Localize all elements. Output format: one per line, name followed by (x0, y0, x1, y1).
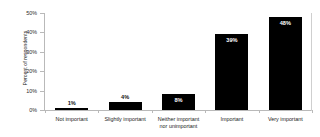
x-tick (312, 110, 313, 113)
x-category-label: Neither importantnor unimportant (152, 116, 205, 129)
x-category-label: Slightly important (98, 116, 151, 123)
y-tick (40, 91, 44, 92)
y-tick (40, 71, 44, 72)
x-tick (98, 110, 99, 113)
y-tick-label: 40% (13, 29, 37, 35)
bar (269, 17, 302, 110)
bar-value-label: 4% (109, 94, 142, 101)
x-tick (205, 110, 206, 113)
x-category-label-line: nor unimportant (152, 123, 205, 130)
bar-value-label: 1% (55, 100, 88, 107)
x-axis-line (44, 110, 312, 111)
x-category-label-line: Very important (259, 116, 312, 123)
y-tick (40, 110, 44, 111)
plot-area: 1%4%8%39%48% (45, 13, 312, 110)
x-tick (259, 110, 260, 113)
x-category-label-line: Neither important (152, 116, 205, 123)
x-category-label: Not important (45, 116, 98, 123)
x-category-label-line: Not important (45, 116, 98, 123)
bar (215, 34, 248, 110)
x-category-label-line: Important (205, 116, 258, 123)
y-tick-label: 0% (13, 107, 37, 113)
y-tick-label: 10% (13, 88, 37, 94)
x-category-label: Very important (259, 116, 312, 123)
x-category-label-line: Slightly important (98, 116, 151, 123)
bar (55, 108, 88, 110)
y-tick (40, 32, 44, 33)
x-tick (45, 110, 46, 113)
x-category-label: Important (205, 116, 258, 123)
y-tick (40, 13, 44, 14)
bar-value-label: 48% (269, 20, 302, 27)
y-tick-label: 20% (13, 68, 37, 74)
bar-value-label: 39% (215, 37, 248, 44)
y-tick-label: 30% (13, 49, 37, 55)
x-tick (152, 110, 153, 113)
y-tick-label: 50% (13, 10, 37, 16)
bar-value-label: 8% (162, 97, 195, 104)
bar-chart: Percent of respondents 0%10%20%30%40%50%… (0, 0, 320, 137)
y-tick (40, 52, 44, 53)
bar (109, 102, 142, 110)
